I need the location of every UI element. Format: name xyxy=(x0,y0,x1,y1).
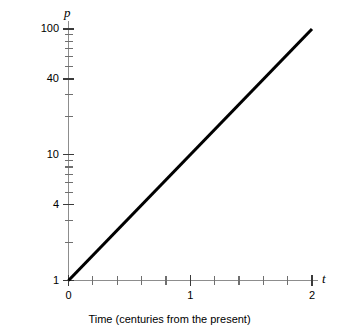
y-tick-label: 10 xyxy=(17,149,59,160)
semilog-population-chart: 100401041012 p t Time (centuries from th… xyxy=(0,0,339,336)
x-tick-label: 2 xyxy=(292,290,332,301)
x-tick-label: 0 xyxy=(49,290,89,301)
data-series-group xyxy=(69,29,313,281)
plot-area xyxy=(0,0,339,336)
x-axis-title: Time (centuries from the present) xyxy=(0,313,339,326)
x-axis-title-text: Time (centuries from the present) xyxy=(88,313,250,325)
x-tick-label: 1 xyxy=(170,290,210,301)
y-tick-label: 1 xyxy=(17,275,59,286)
data-line-population xyxy=(69,29,313,281)
y-tick-label: 4 xyxy=(17,199,59,210)
y-axis-variable-label: p xyxy=(64,6,71,19)
y-tick-label: 40 xyxy=(17,73,59,84)
x-axis-variable-label: t xyxy=(322,272,326,285)
y-tick-label: 100 xyxy=(17,23,59,34)
